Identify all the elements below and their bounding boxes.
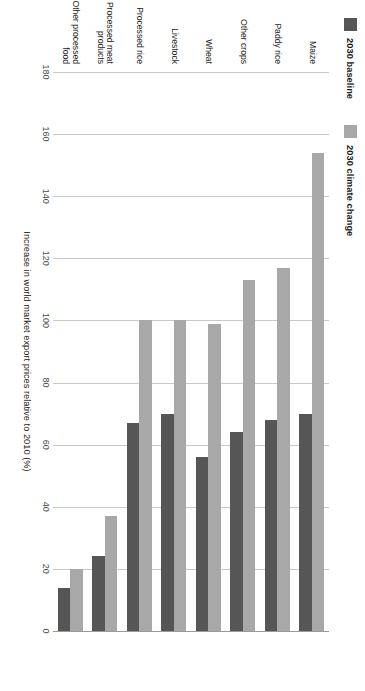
tick-label-120: 120 (41, 251, 51, 266)
bar-2030-baseline-processed-meat-products (92, 556, 105, 631)
bar-row (70, 72, 83, 631)
legend-swatch-climate-change (344, 125, 357, 138)
bar-2030-climate-change-processed-rice (139, 320, 152, 631)
bar-row (243, 72, 256, 631)
bar-2030-baseline-paddy-rice (265, 420, 278, 631)
bar-2030-baseline-other-crops (230, 432, 243, 631)
legend-item-climate-change: 2030 climate change (344, 125, 357, 236)
tick-label-100: 100 (41, 313, 51, 328)
bar-row (265, 72, 278, 631)
bar-group (122, 72, 157, 631)
bar-2030-climate-change-maize (312, 153, 325, 631)
bar-row (312, 72, 325, 631)
bar-2030-baseline-other-processed-food (58, 588, 71, 631)
tick-label-80: 80 (41, 378, 51, 388)
legend-swatch-baseline (344, 18, 357, 31)
bar-row (92, 72, 105, 631)
bar-row (139, 72, 152, 631)
gridline-0 (53, 631, 329, 632)
bar-row (230, 72, 243, 631)
bar-2030-baseline-maize (299, 414, 312, 631)
tick-label-140: 140 (41, 189, 51, 204)
bar-2030-climate-change-wheat (208, 324, 221, 631)
plot-area (53, 72, 329, 631)
chart-legend: 2030 baseline 2030 climate change (344, 18, 357, 236)
bar-group (226, 72, 261, 631)
bar-row (208, 72, 221, 631)
category-label-wheat: Wheat (191, 0, 226, 70)
category-label-other-crops: Other crops (226, 0, 261, 70)
category-label-maize: Maize (295, 0, 330, 70)
bar-row (196, 72, 209, 631)
bar-2030-climate-change-other-processed-food (70, 569, 83, 631)
rotated-figure-wrapper: 2030 baseline 2030 climate change MaizeP… (0, 0, 365, 691)
bar-row (58, 72, 71, 631)
bar-group (295, 72, 330, 631)
bar-chart-figure: 2030 baseline 2030 climate change MaizeP… (0, 0, 365, 691)
bar-2030-climate-change-livestock (174, 320, 187, 631)
bar-2030-baseline-processed-rice (127, 423, 140, 631)
bar-2030-baseline-livestock (161, 414, 174, 631)
bar-row (105, 72, 118, 631)
bar-group (157, 72, 192, 631)
category-label-paddy-rice: Paddy rice (260, 0, 295, 70)
tick-label-0: 0 (41, 628, 51, 633)
bar-2030-climate-change-other-crops (243, 280, 256, 631)
bar-2030-climate-change-processed-meat-products (105, 516, 118, 631)
category-label-other-processed-food: Other processed food (53, 0, 88, 70)
legend-label-baseline: 2030 baseline (346, 38, 356, 99)
bar-group (53, 72, 88, 631)
tick-label-180: 180 (41, 64, 51, 79)
bar-group (260, 72, 295, 631)
bar-2030-climate-change-paddy-rice (277, 268, 290, 631)
value-axis-tick-labels: 020406080100120140160180 (35, 72, 51, 631)
bar-group (191, 72, 226, 631)
value-axis-title: Increase in world market export prices r… (22, 72, 32, 631)
bar-row (161, 72, 174, 631)
bar-row (174, 72, 187, 631)
category-axis-labels: MaizePaddy riceOther cropsWheatLivestock… (53, 0, 329, 70)
tick-label-60: 60 (41, 440, 51, 450)
category-label-livestock: Livestock (157, 0, 192, 70)
bar-groups (53, 72, 329, 631)
legend-label-climate-change: 2030 climate change (346, 145, 356, 236)
bar-row (299, 72, 312, 631)
bar-row (127, 72, 140, 631)
category-label-processed-rice: Processed rice (122, 0, 157, 70)
category-label-processed-meat-products: Processed meat products (88, 0, 123, 70)
tick-label-20: 20 (41, 564, 51, 574)
legend-item-baseline: 2030 baseline (344, 18, 357, 99)
tick-label-160: 160 (41, 127, 51, 142)
bar-group (88, 72, 123, 631)
tick-label-40: 40 (41, 502, 51, 512)
bar-row (277, 72, 290, 631)
bar-2030-baseline-wheat (196, 457, 209, 631)
